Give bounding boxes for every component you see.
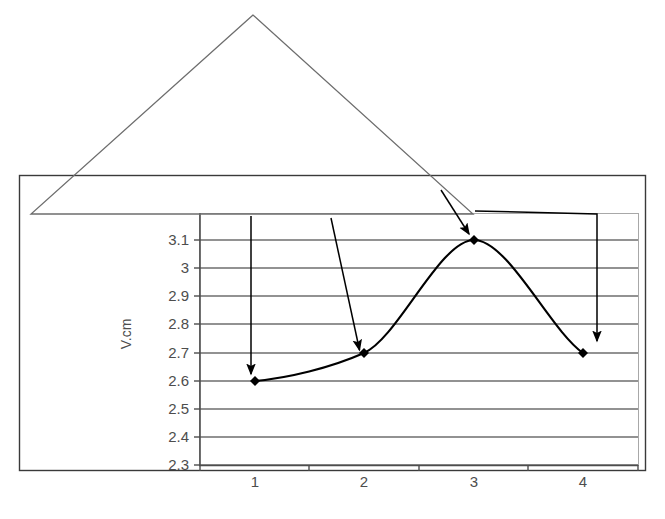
data-series-line bbox=[255, 240, 583, 381]
annotation-arrows bbox=[251, 190, 597, 374]
x-tick-labels: 1 2 3 4 bbox=[251, 473, 587, 490]
data-point-2[interactable] bbox=[359, 348, 369, 358]
y-tick-label-2.4: 2.4 bbox=[168, 428, 189, 445]
data-point-3[interactable] bbox=[469, 235, 479, 245]
data-point-markers bbox=[250, 235, 588, 386]
data-point-1[interactable] bbox=[250, 376, 260, 386]
y-tick-labels: 3.1 3 2.9 2.8 2.7 2.6 2.5 2.4 2.3 bbox=[168, 231, 189, 473]
callout-triangle bbox=[31, 15, 473, 214]
x-tick-label-2: 2 bbox=[360, 473, 368, 490]
y-axis-title: V.cm bbox=[118, 319, 134, 350]
y-tick-label-2.7: 2.7 bbox=[168, 344, 189, 361]
chart-figure: 3.1 3 2.9 2.8 2.7 2.6 2.5 2.4 2.3 1 2 3 … bbox=[0, 0, 665, 519]
y-tick-label-3: 3 bbox=[181, 259, 189, 276]
gridlines-horizontal bbox=[200, 240, 638, 465]
x-tick-label-3: 3 bbox=[470, 473, 478, 490]
arrow-to-point-3 bbox=[441, 190, 469, 234]
y-tick-label-3.1: 3.1 bbox=[168, 231, 189, 248]
y-tick-label-2.8: 2.8 bbox=[168, 315, 189, 332]
y-tick-label-2.9: 2.9 bbox=[168, 287, 189, 304]
plot-area-border bbox=[200, 214, 639, 466]
outer-border bbox=[20, 176, 646, 471]
arrow-to-point-4 bbox=[475, 211, 597, 341]
x-tick-label-4: 4 bbox=[579, 473, 587, 490]
y-tick-label-2.5: 2.5 bbox=[168, 400, 189, 417]
y-tick-label-2.6: 2.6 bbox=[168, 372, 189, 389]
y-tick-label-2.3: 2.3 bbox=[168, 456, 189, 473]
figure-page: 3.1 3 2.9 2.8 2.7 2.6 2.5 2.4 2.3 1 2 3 … bbox=[0, 0, 665, 519]
x-tick-label-1: 1 bbox=[251, 473, 259, 490]
arrow-to-point-2 bbox=[331, 218, 360, 350]
